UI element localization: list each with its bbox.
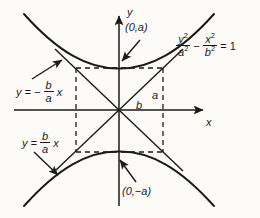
x-axis-label: x bbox=[206, 117, 212, 128]
hyperbola-figure: y2 a2 − x2 b2 = 1 y = − b a x y = b a x … bbox=[0, 0, 260, 218]
asymptote-negative-rhs: x bbox=[57, 86, 63, 98]
equation-first-fraction: y2 a2 bbox=[176, 33, 190, 59]
asymptote-positive-fraction: b a bbox=[40, 130, 50, 156]
axis-group bbox=[14, 16, 203, 206]
vertex-bottom-label: (0,−a) bbox=[122, 186, 151, 197]
equation-equals-one: = 1 bbox=[220, 40, 236, 52]
vertex-top-label: (0,a) bbox=[125, 22, 148, 33]
asymptote-positive-label: y = b a x bbox=[22, 131, 59, 157]
semi-axis-a-label: a bbox=[152, 90, 158, 101]
arrow-to-vertex-top bbox=[122, 40, 140, 61]
asymptote-negative-fraction: b a bbox=[44, 79, 54, 105]
hyperbola-equation-label: y2 a2 − x2 b2 = 1 bbox=[176, 34, 236, 60]
y-axis-label: y bbox=[127, 7, 133, 18]
semi-axis-b-label: b bbox=[136, 100, 142, 111]
asymptote-positive-rhs: x bbox=[53, 137, 59, 149]
asymptote-positive-lhs: y = bbox=[22, 137, 37, 149]
asymptote-negative-lhs: y = − bbox=[16, 86, 40, 98]
asymptote-negative-label: y = − b a x bbox=[16, 80, 62, 106]
equation-second-fraction: x2 b2 bbox=[203, 33, 217, 59]
equation-minus-sign: − bbox=[193, 40, 199, 52]
arrow-to-asymptote-negative bbox=[32, 60, 62, 79]
arrow-to-vertex-bottom bbox=[120, 160, 136, 182]
